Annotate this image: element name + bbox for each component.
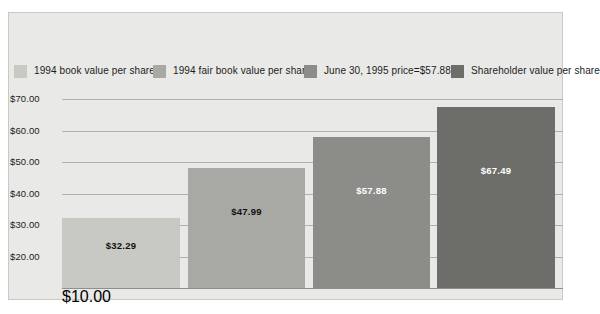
- legend-item-june-1995-price[interactable]: June 30, 1995 price=$57.88: [304, 60, 451, 82]
- y-axis-tick-label: $40.00: [10, 188, 58, 199]
- y-axis-tick-label: $10.00: [62, 288, 111, 305]
- y-axis-tick-label: $60.00: [10, 125, 58, 136]
- bar-3[interactable]: $57.88: [313, 137, 430, 288]
- bar-value-label: $67.49: [437, 165, 555, 176]
- bar-value-label: $57.88: [313, 185, 430, 196]
- legend-item-label: 1994 book value per share: [34, 65, 155, 77]
- legend-item-label: Shareholder value per share: [471, 65, 600, 77]
- gridline: $70.00: [62, 99, 563, 100]
- legend-item-1994-fair-book-value[interactable]: 1994 fair book value per share: [153, 60, 311, 82]
- chart-legend: 1994 book value per share 1994 fair book…: [8, 60, 584, 84]
- bar-value-label: $32.29: [62, 240, 180, 251]
- legend-swatch-icon: [304, 65, 317, 78]
- y-axis-tick-label: $20.00: [10, 251, 58, 262]
- legend-item-label: 1994 fair book value per share: [173, 65, 311, 77]
- legend-swatch-icon: [153, 65, 166, 78]
- bar-value-label: $47.99: [188, 206, 305, 217]
- legend-swatch-icon: [14, 65, 27, 78]
- plot-area: $70.00$60.00$50.00$40.00$30.00$20.00$10.…: [8, 88, 563, 300]
- legend-item-1994-book-value[interactable]: 1994 book value per share: [14, 60, 155, 82]
- legend-swatch-icon: [451, 65, 464, 78]
- y-axis-tick-label: $30.00: [10, 219, 58, 230]
- y-axis-tick-label: $50.00: [10, 156, 58, 167]
- legend-item-shareholder-value[interactable]: Shareholder value per share: [451, 60, 600, 82]
- bar-2[interactable]: $47.99: [188, 168, 305, 288]
- axis-baseline: $10.00: [62, 288, 563, 289]
- bar-1[interactable]: $32.29: [62, 218, 180, 288]
- y-axis-tick-label: $70.00: [10, 93, 58, 104]
- legend-item-label: June 30, 1995 price=$57.88: [324, 65, 451, 77]
- bar-4[interactable]: $67.49: [437, 107, 555, 288]
